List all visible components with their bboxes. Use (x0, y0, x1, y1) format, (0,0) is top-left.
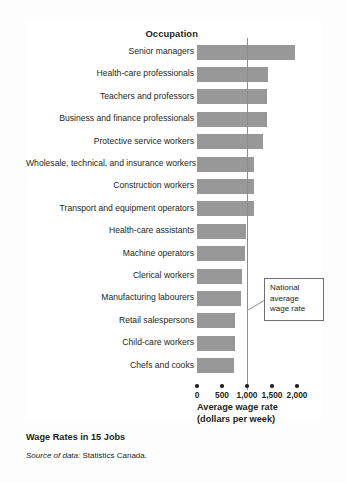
bar-label: Construction workers (26, 180, 194, 190)
source-text: Statistics Canada. (80, 451, 147, 460)
x-axis-tick-label: 2,000 (287, 390, 308, 400)
bar-label: Senior managers (26, 46, 194, 56)
bar (197, 134, 263, 149)
x-axis-tick-label: 1,500 (262, 390, 283, 400)
x-axis-tick-dot (295, 384, 299, 388)
bar-label: Teachers and professors (26, 91, 194, 101)
figure-wage-rates: Occupation Senior managersHealth-care pr… (0, 0, 346, 483)
x-axis: Average wage rate (dollars per week) 050… (26, 382, 322, 422)
bar (197, 336, 235, 351)
chart-row: Teachers and professors (26, 87, 322, 109)
national-average-line (247, 38, 248, 390)
chart-row: Child-care workers (26, 333, 322, 355)
column-header-occupation: Occupation (26, 28, 198, 39)
x-axis-title-line-1: Average wage rate (197, 402, 337, 414)
annotation-line-2: average (270, 294, 299, 303)
bar-label: Business and finance professionals (26, 113, 194, 123)
figure-source: Source of data: Statistics Canada. (26, 451, 326, 460)
bar-label: Clerical workers (26, 270, 194, 280)
annotation-national-average: National average wage rate (264, 278, 324, 321)
bar (197, 246, 245, 261)
bar (197, 269, 242, 284)
bar (197, 89, 267, 104)
bar (197, 45, 295, 60)
chart-row: Health-care assistants (26, 221, 322, 243)
chart-row: Senior managers (26, 42, 322, 64)
plot-area: Senior managersHealth-care professionals… (26, 42, 322, 382)
bar (197, 291, 241, 306)
x-axis-tick-dot (220, 384, 224, 388)
x-axis-tick-label: 0 (195, 390, 200, 400)
figure-title: Wage Rates in 15 Jobs (26, 432, 326, 442)
x-axis-tick-label: 1,000 (237, 390, 258, 400)
source-lead: Source of data: (26, 451, 80, 460)
chart-row: Business and finance professionals (26, 109, 322, 131)
x-axis-title-line-2: (dollars per week) (197, 414, 337, 426)
bar (197, 179, 254, 194)
bar (197, 112, 267, 127)
bar-label: Transport and equipment operators (26, 203, 194, 213)
bar-label: Chefs and cooks (26, 360, 194, 370)
x-axis-tick-label: 500 (215, 390, 229, 400)
x-axis-tick-dot (245, 384, 249, 388)
chart-row: Wholesale, technical, and insurance work… (26, 154, 322, 176)
bar (197, 201, 254, 216)
chart-row: Construction workers (26, 176, 322, 198)
x-axis-tick-dot (195, 384, 199, 388)
bar-label: Health-care professionals (26, 68, 194, 78)
bar-label: Child-care workers (26, 337, 194, 347)
chart-row: Chefs and cooks (26, 356, 322, 378)
chart-row: Machine operators (26, 244, 322, 266)
x-axis-title: Average wage rate (dollars per week) (197, 402, 337, 425)
chart-row: Protective service workers (26, 132, 322, 154)
chart-row: Health-care professionals (26, 64, 322, 86)
bar-label: Wholesale, technical, and insurance work… (26, 158, 194, 168)
chart-row: Transport and equipment operators (26, 199, 322, 221)
bar-label: Health-care assistants (26, 225, 194, 235)
chart-panel: Occupation Senior managersHealth-care pr… (26, 20, 322, 420)
bar-label: Retail salespersons (26, 315, 194, 325)
bar-label: Protective service workers (26, 136, 194, 146)
bar (197, 313, 235, 328)
bar-label: Machine operators (26, 248, 194, 258)
bar-label: Manufacturing labourers (26, 292, 194, 302)
bar (197, 157, 254, 172)
callout-leader-line (248, 300, 265, 310)
annotation-line-1: National (270, 283, 299, 292)
figure-caption: Wage Rates in 15 Jobs Source of data: St… (26, 432, 326, 460)
bar (197, 67, 268, 82)
bar (197, 358, 234, 373)
bar (197, 224, 246, 239)
annotation-line-3: wage rate (270, 304, 305, 313)
x-axis-tick-dot (270, 384, 274, 388)
